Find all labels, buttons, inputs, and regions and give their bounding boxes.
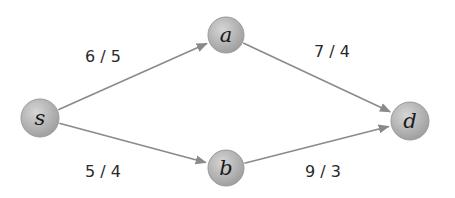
node-label-b: b <box>219 156 232 180</box>
node-d: d <box>391 102 429 140</box>
edge-label-a-d: 7 / 4 <box>314 42 350 61</box>
edge-b-d <box>244 126 388 163</box>
edge-label-b-d: 9 / 3 <box>305 162 341 181</box>
node-b: b <box>208 150 244 186</box>
edge-label-s-b: 5 / 4 <box>85 162 121 181</box>
flow-network-diagram: sabd 6 / 57 / 45 / 49 / 3 <box>0 0 455 198</box>
node-a: a <box>208 17 244 53</box>
node-label-a: a <box>220 23 233 47</box>
node-s: s <box>21 99 59 137</box>
edge-label-s-a: 6 / 5 <box>85 47 121 66</box>
node-label-s: s <box>35 106 46 130</box>
node-label-d: d <box>403 109 416 133</box>
edge-s-a <box>58 44 207 110</box>
edge-s-b <box>59 123 205 162</box>
